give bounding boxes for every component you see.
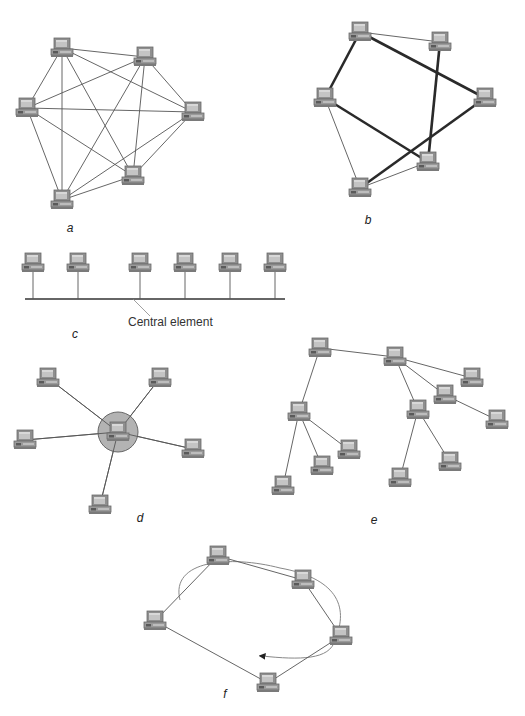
computer-icon [330,626,352,645]
computer-icon [439,452,461,471]
thick-link [360,32,485,98]
computer-icon [417,152,439,171]
computer-icon [89,495,111,514]
computer-icon [122,166,144,185]
central-element-annotation: Central element [128,315,213,329]
network-link [155,621,268,683]
computer-icon [129,253,151,272]
computer-icon [288,402,310,421]
network-link [27,57,145,108]
ring-direction-arrow-icon [179,562,341,658]
computer-icon [309,338,331,357]
network-topologies-figure: a b Central elementc d e f [0,0,525,716]
computer-icon [292,570,314,589]
computer-icon [51,38,73,57]
computer-icon [349,22,371,41]
computer-icon [219,253,241,272]
computer-icon [14,430,36,449]
computer-icon [51,190,73,209]
panel-c-bus: Central elementc [22,253,286,341]
panel-label-c: c [72,327,78,341]
computer-icon [107,422,129,441]
panel-label-f: f [223,687,228,701]
network-link [218,556,303,580]
thick-link [360,98,485,188]
panel-e-tree: e [272,338,508,527]
computer-icon [474,88,496,107]
panel-b-partial-mesh: b [314,22,496,227]
computer-icon [174,253,196,272]
computer-icon [182,439,204,458]
computer-icon [338,440,360,459]
computer-icon [429,32,451,51]
computer-icon [182,102,204,121]
thick-link [428,42,440,162]
computer-icon [144,611,166,630]
computer-icon [434,385,456,404]
computer-icon [311,456,333,475]
computer-icon [149,368,171,387]
computer-icon [272,476,294,495]
computer-icon [486,410,508,429]
computer-icon [384,347,406,366]
network-link [27,108,62,200]
network-link [62,48,193,112]
computer-icon [207,546,229,565]
annotation-leader-line [133,299,150,316]
computer-icon [461,368,483,387]
network-link [133,112,193,176]
computer-icon [264,253,286,272]
network-link [395,357,472,378]
computer-icon [134,47,156,66]
panel-d-star: d [14,368,204,525]
network-link [155,556,218,621]
computer-icon [407,400,429,419]
network-link [62,48,145,57]
panel-label-b: b [365,213,372,227]
network-link [27,108,133,176]
computer-icon [349,178,371,197]
panel-label-a: a [67,221,74,235]
computer-icon [22,253,44,272]
network-link [62,112,193,200]
panel-label-e: e [371,513,378,527]
computer-icon [389,468,411,487]
computer-icon [67,253,89,272]
panel-a-mesh: a [16,38,204,235]
computer-icon [257,673,279,692]
network-link [325,98,360,188]
computer-icon [16,98,38,117]
computer-icon [314,88,336,107]
thick-link [325,98,428,162]
network-link [27,108,193,112]
network-link [283,412,299,486]
computer-icon [37,368,59,387]
panel-f-ring: f [144,546,352,701]
panel-label-d: d [137,511,144,525]
